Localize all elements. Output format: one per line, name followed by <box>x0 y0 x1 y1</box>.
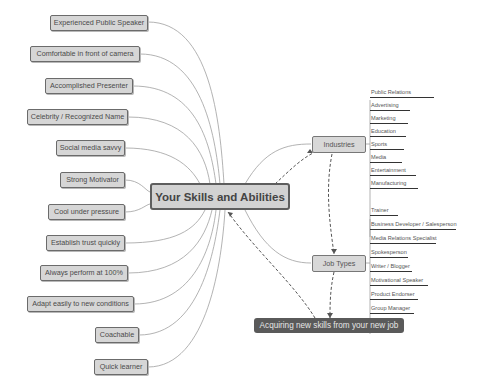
central-topic-label: Your Skills and Abilities <box>155 191 285 203</box>
skill-node[interactable]: Social media savvy <box>56 140 125 156</box>
skill-node[interactable]: Establish trust quickly <box>46 235 125 251</box>
job-types-label: Job Types <box>323 259 356 268</box>
skill-label: Coachable <box>100 331 134 338</box>
job-type-item[interactable]: Trainer <box>370 207 398 216</box>
skill-label: Comfortable in front of camera <box>36 50 133 57</box>
skill-node[interactable]: Cool under pressure <box>48 204 125 220</box>
skill-label: Cool under pressure <box>54 208 119 215</box>
job-type-item[interactable]: Media Relations Specialist <box>370 235 436 244</box>
skill-node[interactable]: Comfortable in front of camera <box>30 46 140 62</box>
job-type-item[interactable]: Business Developer / Salesperson <box>370 221 456 230</box>
industry-item[interactable]: Media <box>370 154 402 163</box>
job-type-item[interactable]: Writer / Blogger <box>370 263 412 272</box>
skill-label: Strong Motivator <box>66 176 119 183</box>
industries-label: Industries <box>323 140 354 149</box>
skill-label: Social media savvy <box>60 144 122 151</box>
skill-node[interactable]: Adapt easily to new conditions <box>27 296 134 312</box>
industry-item[interactable]: Advertising <box>370 102 410 111</box>
skill-node[interactable]: Coachable <box>95 327 139 343</box>
skill-label: Quick learner <box>100 363 143 370</box>
industry-item[interactable]: Marketing <box>370 115 408 124</box>
industry-item[interactable]: Sports <box>370 141 404 150</box>
outcome-label: Acquiring new skills from your new job <box>260 321 399 330</box>
industries-node[interactable]: Industries <box>312 136 366 153</box>
industry-item[interactable]: Entertainment <box>370 167 416 176</box>
skill-node[interactable]: Celebrity / Recognized Name <box>27 109 128 125</box>
skill-label: Establish trust quickly <box>51 239 120 246</box>
skill-node[interactable]: Always perform at 100% <box>40 265 128 281</box>
industry-item[interactable]: Manufacturing <box>370 180 418 189</box>
skill-label: Always perform at 100% <box>45 269 123 276</box>
outcome-node[interactable]: Acquiring new skills from your new job <box>254 318 404 333</box>
job-type-item[interactable]: Product Endorser <box>370 291 418 300</box>
job-type-item[interactable]: Spokesperson <box>370 249 408 258</box>
industry-item[interactable]: Education <box>370 128 406 137</box>
skill-label: Accomplished Presenter <box>50 82 128 89</box>
job-types-node[interactable]: Job Types <box>312 255 366 272</box>
skill-label: Adapt easily to new conditions <box>32 300 129 307</box>
skill-label: Experienced Public Speaker <box>54 19 144 26</box>
skill-label: Celebrity / Recognized Name <box>31 113 124 120</box>
industry-item[interactable]: Public Relations <box>370 89 434 98</box>
skill-node[interactable]: Quick learner <box>94 359 148 375</box>
central-topic[interactable]: Your Skills and Abilities <box>150 183 290 210</box>
job-type-item[interactable]: Motivational Speaker <box>370 277 428 286</box>
job-type-item[interactable]: Group Manager <box>370 305 414 314</box>
skill-node[interactable]: Experienced Public Speaker <box>50 15 148 31</box>
skill-node[interactable]: Strong Motivator <box>60 172 125 188</box>
skill-node[interactable]: Accomplished Presenter <box>45 78 133 94</box>
